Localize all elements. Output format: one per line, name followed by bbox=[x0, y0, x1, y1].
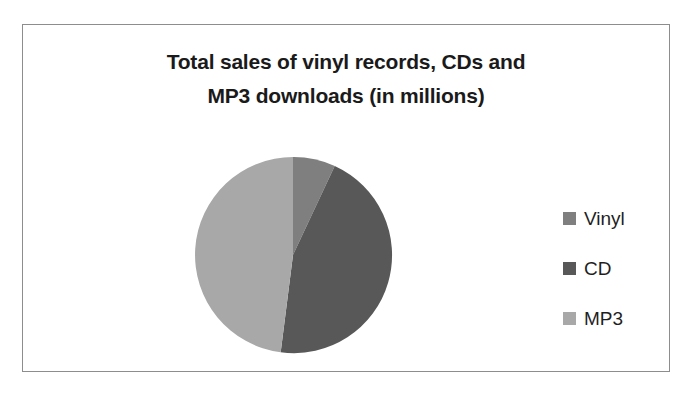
chart-title-line-2: MP3 downloads (in millions) bbox=[23, 79, 669, 113]
pie-chart bbox=[191, 155, 395, 355]
chart-legend: Vinyl CD MP3 bbox=[563, 193, 673, 343]
legend-swatch-icon-mp3 bbox=[563, 312, 576, 325]
pie-slices bbox=[195, 157, 392, 353]
pie-slice-mp3[interactable] bbox=[195, 157, 293, 352]
legend-swatch-icon-cd bbox=[563, 262, 576, 275]
chart-title: Total sales of vinyl records, CDs and MP… bbox=[23, 45, 669, 113]
legend-swatch-icon-vinyl bbox=[563, 212, 576, 225]
legend-label-cd: CD bbox=[584, 259, 611, 278]
legend-label-mp3: MP3 bbox=[584, 309, 623, 328]
chart-frame: Total sales of vinyl records, CDs and MP… bbox=[22, 24, 670, 372]
pie-chart-svg bbox=[191, 155, 395, 355]
legend-label-vinyl: Vinyl bbox=[584, 209, 625, 228]
legend-item-mp3[interactable]: MP3 bbox=[563, 293, 673, 343]
chart-title-line-1: Total sales of vinyl records, CDs and bbox=[23, 45, 669, 79]
legend-item-cd[interactable]: CD bbox=[563, 243, 673, 293]
legend-item-vinyl[interactable]: Vinyl bbox=[563, 193, 673, 243]
